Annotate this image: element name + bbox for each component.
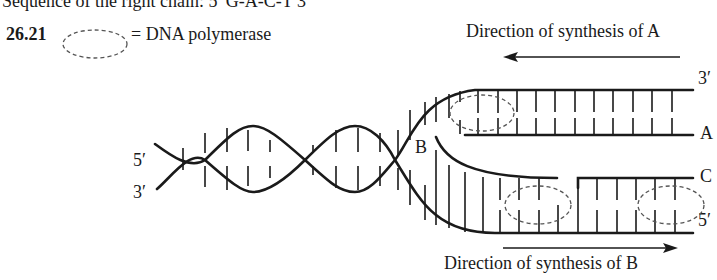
- polymerases: [450, 95, 704, 224]
- replication-fork-diagram: [0, 0, 717, 280]
- lagging-strand-b: [436, 137, 557, 178]
- legend-polymerase-icon: [63, 30, 127, 58]
- polymerase-lagging-1: [505, 186, 571, 224]
- direction-b-arrow: [503, 243, 678, 253]
- direction-a-arrow: [503, 52, 680, 62]
- polymerase-lagging-2: [638, 186, 704, 224]
